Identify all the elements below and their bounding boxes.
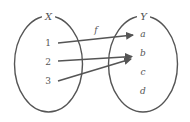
- codomain-element-b: b: [140, 48, 146, 58]
- codomain-element-c: c: [140, 67, 145, 77]
- domain-element-2: 2: [45, 57, 51, 67]
- function-mapping-diagram: X 1 2 3 Y a b c d f: [0, 0, 190, 122]
- mapping-arrows: f: [58, 25, 133, 81]
- domain-element-3: 3: [45, 76, 51, 86]
- function-label: f: [93, 25, 99, 35]
- arrow-1-to-a: [58, 35, 133, 43]
- domain-set: X 1 2 3: [15, 10, 83, 112]
- arrow-3-to-b: [58, 59, 131, 81]
- codomain-element-d: d: [140, 86, 146, 96]
- codomain-element-a: a: [140, 29, 145, 39]
- domain-element-1: 1: [45, 38, 51, 48]
- arrow-2-to-b: [58, 57, 132, 62]
- domain-label: X: [44, 11, 53, 22]
- codomain-set: Y a b c d: [109, 10, 178, 112]
